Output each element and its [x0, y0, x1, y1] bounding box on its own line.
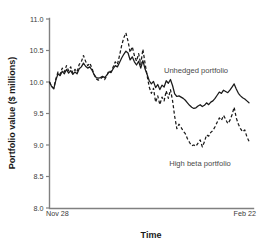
y-tick-label: 8.0 [34, 204, 44, 213]
chart-container: 11.010.510.09.59.08.58.0 Nov 28 Feb 22 P… [0, 0, 271, 249]
y-tick-label: 11.0 [30, 15, 43, 24]
annotation-unhedged-portfolio: Unhedged portfolio [164, 66, 228, 75]
y-tick-label: 9.0 [34, 141, 44, 150]
y-tick-label: 8.5 [34, 172, 44, 181]
annotation-high-beta-portfolio: High beta portfolio [169, 159, 231, 168]
x-axis-title: Time [141, 230, 162, 240]
x-tick-label-end: Feb 22 [234, 209, 256, 218]
portfolio-value-line-chart: 11.010.510.09.59.08.58.0 Nov 28 Feb 22 P… [0, 0, 271, 249]
y-tick-label: 10.0 [30, 78, 44, 87]
y-tick-label: 10.5 [30, 46, 44, 55]
x-tick-label-start: Nov 28 [46, 209, 69, 218]
y-tick-label: 9.5 [34, 109, 44, 118]
y-axis-title: Portfolio value ($ millions) [7, 57, 17, 170]
